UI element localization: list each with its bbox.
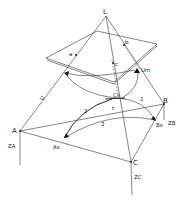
label-ZA: ZA [8,143,16,149]
label-t: t [112,105,115,111]
label-As: As [53,144,60,150]
label-arc-2: 2 [84,108,88,114]
label-B: B [163,97,168,105]
label-a: a [69,51,72,57]
label-L: L [103,8,107,16]
edge-A-C [20,131,131,162]
label-U: U [38,95,45,101]
label-C: C [133,159,138,167]
arc-2s [66,117,155,137]
arrowheads [64,68,156,138]
ray-L-A [20,16,106,131]
edge-C-B [131,104,164,162]
label-Cs: Cs [113,92,120,98]
label-arc-1: 1 [140,96,144,102]
label-Bs: Bs [156,122,163,128]
ray-L-C [106,16,131,162]
horizontal-mark [105,98,125,99]
label-c: c [115,61,118,67]
arc-right-down [122,70,138,98]
base-triangle [20,104,164,162]
label-ZB: ZB [168,120,176,126]
light-rays [20,16,164,162]
ray-L-B [106,16,164,104]
label-b: b [125,39,129,45]
arrowhead-icon [151,116,156,121]
arc-left-down [65,73,118,98]
projection-plane [46,31,157,84]
column-C [131,162,132,195]
label-arc-2s: 2̃ [101,121,105,127]
points [19,44,165,163]
label-ZC: ZC [134,174,142,180]
label-A: A [12,127,17,135]
label-Um: Um [141,67,150,73]
projection-diagram: L a b c Um U Cs t 1 2 2̃ B Bs ZB A ZA As… [0,0,188,206]
